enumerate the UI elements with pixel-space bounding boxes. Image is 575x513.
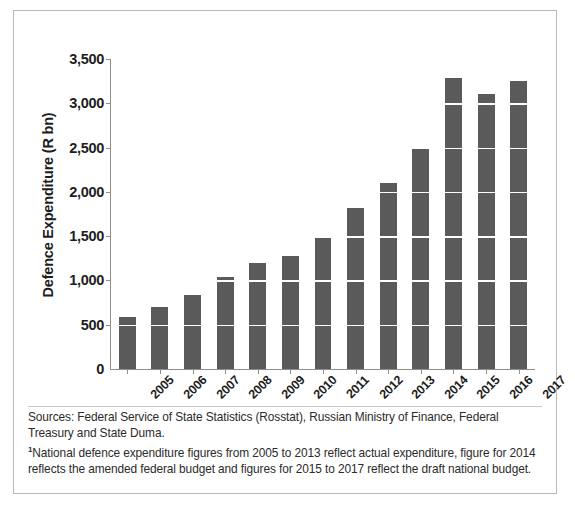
footnote-note: 1National defence expenditure figures fr… [28, 442, 542, 477]
x-tick-label: 2005 [148, 373, 177, 402]
bar[interactable] [217, 277, 234, 369]
y-tick-label: 3,500 [32, 51, 104, 67]
bar-slot [119, 59, 136, 369]
bar-slot [315, 59, 332, 369]
bar[interactable] [119, 317, 136, 369]
bar[interactable] [249, 263, 266, 369]
x-tick-label: 2009 [279, 373, 308, 402]
y-tick-mark [106, 325, 111, 326]
x-tick-label: 2008 [246, 373, 275, 402]
footnote-divider [28, 406, 542, 407]
x-tick-label: 2011 [344, 373, 372, 401]
y-tick-label: 2,500 [32, 140, 104, 156]
footnote-block: Sources: Federal Service of State Statis… [28, 410, 542, 477]
y-tick-mark [106, 148, 111, 149]
bar[interactable] [380, 183, 397, 369]
y-axis-tick-labels: 05001,0001,5002,0002,5003,0003,500 [32, 11, 104, 406]
x-tick-label: 2013 [409, 373, 438, 402]
y-tick-label: 1,500 [32, 228, 104, 244]
bar-slot [380, 59, 397, 369]
bar-slot [249, 59, 266, 369]
bar[interactable] [445, 78, 462, 369]
bar-slot [510, 59, 527, 369]
y-tick-label: 3,000 [32, 95, 104, 111]
x-tick-label: 2012 [376, 373, 405, 402]
y-tick-label: 1,000 [32, 272, 104, 288]
x-tick-label: 2010 [311, 373, 340, 402]
y-tick-mark [106, 103, 111, 104]
bar-slot [184, 59, 201, 369]
bar-slot [151, 59, 168, 369]
bar[interactable] [315, 236, 332, 369]
x-tick-label: 2006 [181, 373, 210, 402]
bar[interactable] [151, 307, 168, 369]
bar[interactable] [184, 295, 201, 369]
y-tick-mark [106, 192, 111, 193]
x-axis-tick-labels: 2005200620072008200920102011201220132014… [110, 371, 534, 411]
y-tick-mark [106, 236, 111, 237]
bar[interactable] [282, 256, 299, 369]
bar[interactable] [347, 208, 364, 369]
x-tick-label: 2017 [539, 373, 568, 402]
footnote-note-text: National defence expenditure figures fro… [28, 446, 536, 476]
x-tick-label: 2015 [474, 373, 503, 402]
bar-slot [412, 59, 429, 369]
bar-chart: Defence Expenditure (R bn) 05001,0001,50… [14, 11, 558, 406]
footnote-sources: Sources: Federal Service of State Statis… [28, 410, 542, 441]
bar-series [111, 59, 535, 369]
bar-slot [217, 59, 234, 369]
y-tick-label: 2,000 [32, 184, 104, 200]
figure-frame: Defence Expenditure (R bn) 05001,0001,50… [13, 10, 557, 494]
bar-slot [347, 59, 364, 369]
y-tick-label: 0 [32, 361, 104, 377]
x-tick-label: 2014 [442, 373, 471, 402]
y-tick-mark [106, 59, 111, 60]
plot-area [110, 59, 535, 370]
x-tick-label: 2016 [507, 373, 536, 402]
bar-slot [478, 59, 495, 369]
bar-slot [282, 59, 299, 369]
bar-slot [445, 59, 462, 369]
y-tick-label: 500 [32, 317, 104, 333]
bar[interactable] [510, 81, 527, 369]
x-tick-label: 2007 [213, 373, 242, 402]
bar[interactable] [478, 94, 495, 369]
y-tick-mark [106, 280, 111, 281]
bar[interactable] [412, 149, 429, 369]
